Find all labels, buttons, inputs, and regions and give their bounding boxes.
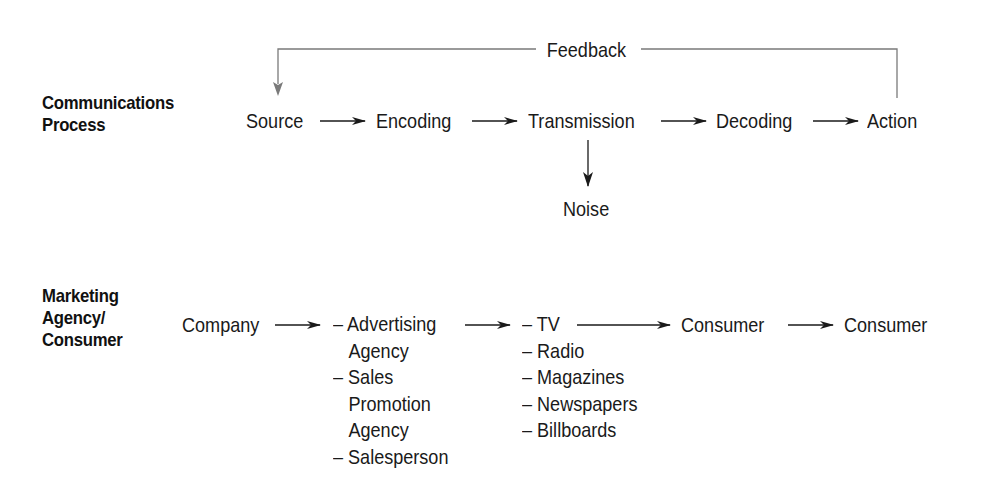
list-item: – Magazines [522, 364, 637, 391]
node-source: Source [246, 109, 303, 133]
label-line: Agency/ [42, 307, 123, 329]
node-decoding: Decoding [716, 109, 792, 133]
media-list: – TV – Radio – Magazines – Newspapers – … [522, 311, 637, 444]
list-item: – Advertising [333, 311, 448, 338]
node-consumer-2: Consumer [844, 313, 927, 337]
list-item: Agency [333, 338, 448, 365]
node-company: Company [182, 313, 259, 337]
label-line: Process [42, 114, 174, 136]
label-line: Communications [42, 92, 174, 114]
label-line: Consumer [42, 329, 123, 351]
list-item: – TV [522, 311, 637, 338]
list-item: Promotion [333, 391, 448, 418]
list-item: – Billboards [522, 417, 637, 444]
label-line: Marketing [42, 285, 123, 307]
list-item: Agency [333, 417, 448, 444]
node-noise: Noise [563, 197, 609, 221]
feedback-arrow-icon [273, 82, 283, 96]
list-item: – Salesperson [333, 444, 448, 471]
node-encoding: Encoding [376, 109, 451, 133]
node-action: Action [867, 109, 917, 133]
list-item: – Radio [522, 338, 637, 365]
node-transmission: Transmission [528, 109, 635, 133]
communications-process-label: Communications Process [42, 92, 174, 136]
node-consumer-1: Consumer [681, 313, 764, 337]
marketing-agency-consumer-label: Marketing Agency/ Consumer [42, 285, 123, 351]
feedback-label: Feedback [545, 38, 628, 62]
list-item: – Sales [333, 364, 448, 391]
agency-list: – Advertising Agency – Sales Promotion A… [333, 311, 448, 470]
list-item: – Newspapers [522, 391, 637, 418]
connector-layer [0, 0, 985, 479]
